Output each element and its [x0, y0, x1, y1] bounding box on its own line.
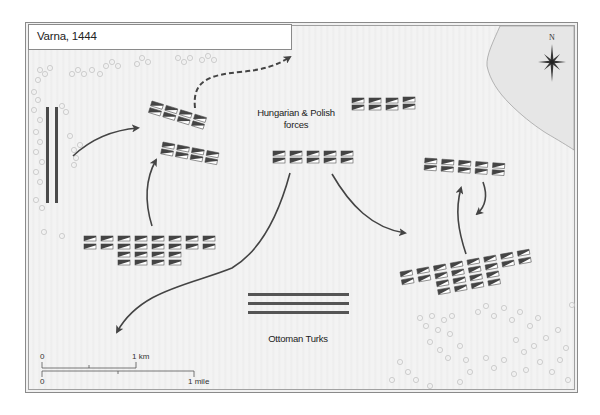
scale-mile-label: 1 mile: [188, 377, 209, 386]
hungarian-unit-upper-left: [148, 101, 206, 129]
hungarian-unit-lower-left: [84, 236, 215, 265]
hungarian-unit-right: [424, 158, 505, 176]
scale-km-zero: 0: [40, 352, 44, 361]
scale-bar: [42, 362, 194, 377]
woods-lower-right: [389, 302, 574, 388]
ottoman-lines: [248, 293, 349, 314]
title-box: Varna, 1444: [28, 24, 292, 50]
arrow-lower-left-to-middle: [147, 160, 156, 226]
scale-km-label: 1 km: [132, 352, 149, 361]
arrow-left-bars-to-upper-unit: [73, 128, 138, 156]
compass-north-label: N: [549, 33, 555, 42]
arrow-retreat-dashed: [195, 57, 290, 108]
left-bar-1: [46, 107, 49, 203]
arrow-right-down: [477, 182, 486, 214]
label-hungarian-polish-line1: Hungarian & Polish: [246, 107, 346, 119]
map-title: Varna, 1444: [37, 30, 97, 42]
movement-arrows: [73, 57, 486, 332]
woods-upper-left: [31, 53, 216, 238]
label-hungarian-polish: Hungarian & Polish forces: [246, 107, 346, 131]
hungarian-unit-upper-right: [352, 97, 415, 110]
hungarian-unit-lower-right: [400, 249, 534, 300]
label-ottoman-turks: Ottoman Turks: [258, 333, 338, 345]
hungarian-unit-left-middle: [161, 142, 219, 165]
arrow-lower-right-up: [458, 188, 466, 254]
map-canvas: N: [0, 0, 600, 415]
sea-area: [487, 26, 574, 150]
hungarian-unit-center: [273, 151, 353, 163]
scale-mile-zero: 0: [40, 377, 44, 386]
arrow-center-to-east: [332, 174, 405, 233]
left-bar-2: [55, 107, 58, 203]
label-hungarian-polish-line2: forces: [246, 119, 346, 131]
